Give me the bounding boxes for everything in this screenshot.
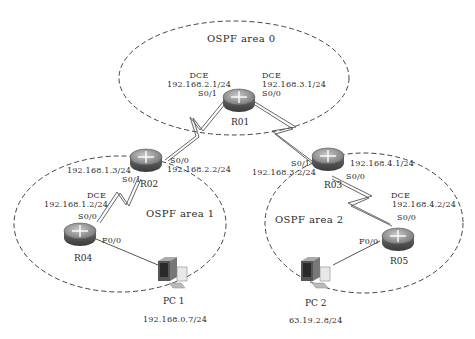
r05-f00-port: F0/0 [359, 237, 378, 246]
area2-label: OSPF area 2 [275, 214, 343, 225]
router-icon-r05[interactable] [380, 225, 416, 253]
r01-s01-port: S0/1 [198, 89, 217, 98]
pc-icon-pc2[interactable] [298, 255, 332, 289]
network-diagram: OSPF area 0 OSPF area 1 OSPF area 2 R01 … [0, 0, 475, 339]
r01-s00-dce: DCE [262, 71, 281, 80]
pc2-label: PC 2 [305, 298, 327, 308]
router-icon-r01[interactable] [221, 86, 257, 114]
r04-s00-port: S0/0 [78, 212, 97, 221]
r03-s00-port: S0/0 [346, 172, 365, 181]
pc-icon-pc1[interactable] [155, 255, 189, 289]
r03-s01-port: S0/1 [291, 159, 310, 168]
r05-label: R05 [390, 256, 408, 266]
r01-label: R01 [231, 117, 249, 127]
area1-label: OSPF area 1 [146, 208, 214, 219]
r03-s00-ip: 192.168.4.1/24 [350, 159, 414, 168]
r02-s00-port: S0/0 [170, 156, 189, 165]
r01-s01-ip: 192.168.2.1/24 [167, 80, 231, 89]
r05-s00-port: S0/0 [397, 213, 416, 222]
r01-s00-port: S0/0 [262, 89, 281, 98]
r02-label: R02 [140, 179, 158, 189]
r02-s01-port: S0/1 [122, 175, 141, 184]
r01-s00-ip: 192.168.3.1/24 [262, 80, 326, 89]
router-icon-r04[interactable] [62, 220, 98, 248]
r03-label: R03 [324, 180, 342, 190]
pc2-ip: 63.19.2.8/24 [289, 316, 342, 325]
r02-s01-ip: 192.168.1.3/24 [67, 166, 131, 175]
r04-s00-ip: 192.168.1.2/24 [44, 200, 108, 209]
area0-label: OSPF area 0 [207, 33, 275, 44]
pc1-ip: 192.168.0.7/24 [143, 315, 207, 324]
r05-s00-ip: 192.168.4.2/24 [392, 200, 456, 209]
pc1-label: PC 1 [163, 296, 185, 306]
area1-boundary [14, 156, 226, 292]
r04-label: R04 [74, 253, 92, 263]
r04-f00-port: F0/0 [102, 236, 121, 245]
r05-s00-dce: DCE [391, 191, 410, 200]
r01-s01-dce: DCE [164, 71, 234, 80]
r02-s00-ip: 192.168.2.2/24 [167, 165, 231, 174]
r04-s00-dce: DCE [87, 191, 106, 200]
router-icon-r02[interactable] [128, 146, 164, 174]
r03-s01-ip: 192.168.3.2/24 [252, 168, 316, 177]
